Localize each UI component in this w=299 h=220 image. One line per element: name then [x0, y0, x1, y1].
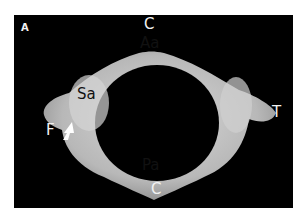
label-t: T: [272, 105, 281, 120]
label-c-top: C: [144, 17, 154, 32]
label-c-bottom: C: [151, 182, 161, 197]
figure-panel: A C Aa Sa T F Pa C: [14, 15, 293, 208]
panel-letter: A: [21, 23, 29, 33]
label-aa: Aa: [140, 36, 159, 51]
label-f: F: [46, 123, 55, 138]
label-pa: Pa: [142, 158, 160, 173]
label-sa: Sa: [77, 87, 96, 102]
